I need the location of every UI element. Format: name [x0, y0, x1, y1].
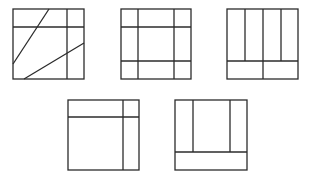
square-outline [121, 9, 191, 79]
diagram-canvas [0, 0, 313, 177]
square-outline [13, 9, 84, 79]
square-outline [175, 100, 247, 170]
partition-line [24, 43, 84, 79]
partitioned-square-3 [227, 9, 298, 79]
partitioned-square-4 [68, 100, 139, 170]
partitioned-square-1 [13, 9, 84, 79]
partitioned-square-2 [121, 9, 191, 79]
square-outline [68, 100, 139, 170]
partitioned-square-5 [175, 100, 247, 170]
partition-line [13, 9, 49, 64]
